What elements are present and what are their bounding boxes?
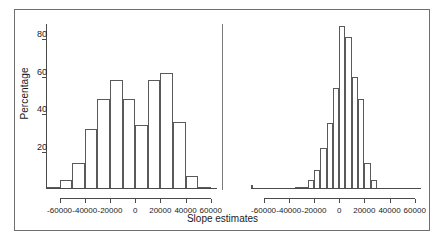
left-histogram-bars — [47, 24, 217, 189]
histogram-figure: Percentage 20406080 -60000-40000-2000002… — [0, 0, 445, 243]
right-histogram-panel: -60000-40000-200000200004000060000 — [251, 24, 421, 189]
histogram-bar — [160, 73, 173, 189]
x-tick-mark — [160, 199, 161, 203]
x-tick-mark — [85, 199, 86, 203]
histogram-bar — [123, 99, 136, 189]
histogram-bar — [148, 80, 161, 189]
y-tick: 40 — [0, 114, 47, 115]
left-histogram-panel: -60000-40000-200000200004000060000 — [47, 24, 217, 189]
right-histogram-bars — [251, 24, 421, 189]
x-tick-mark — [339, 199, 340, 203]
histogram-bar — [97, 99, 110, 189]
histogram-bar — [135, 125, 148, 189]
y-tick: 60 — [0, 77, 47, 78]
y-tick-label: 20 — [25, 147, 47, 148]
panel-separator — [222, 24, 223, 190]
histogram-bar — [85, 129, 98, 189]
left-plot-area: -60000-40000-200000200004000060000 — [47, 24, 217, 189]
left-x-axis-line — [47, 188, 217, 189]
right-plot-area: -60000-40000-200000200004000060000 — [251, 24, 421, 189]
x-tick-mark — [60, 199, 61, 203]
x-tick-mark — [264, 199, 265, 203]
x-tick-mark — [289, 199, 290, 203]
y-tick: 20 — [0, 152, 47, 153]
histogram-bar — [110, 80, 123, 189]
x-tick-mark — [186, 199, 187, 203]
x-tick-mark — [211, 199, 212, 203]
y-tick-label: 60 — [25, 72, 47, 73]
x-tick-mark — [135, 199, 136, 203]
y-tick: 80 — [0, 39, 47, 40]
x-tick-mark — [364, 199, 365, 203]
y-tick-label: 40 — [25, 109, 47, 110]
x-tick-mark — [390, 199, 391, 203]
right-x-axis-line — [251, 188, 421, 189]
histogram-bar — [72, 163, 85, 189]
histogram-bar — [173, 122, 186, 190]
y-tick-label: 80 — [25, 34, 47, 35]
x-tick-mark — [110, 199, 111, 203]
y-axis-title: Percentage — [19, 39, 30, 149]
x-tick-mark — [314, 199, 315, 203]
x-tick-mark — [415, 199, 416, 203]
x-axis-title: Slope estimates — [0, 213, 445, 224]
